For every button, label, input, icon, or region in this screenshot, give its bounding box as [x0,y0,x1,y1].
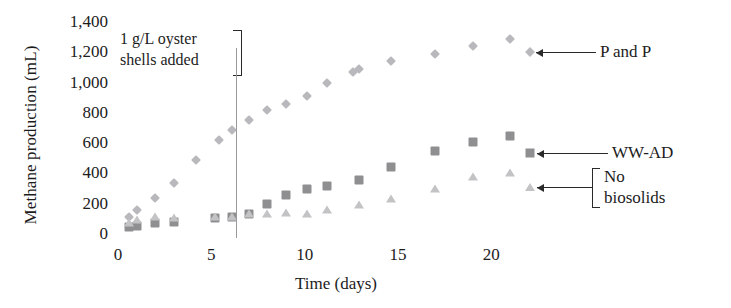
data-point [214,135,224,145]
legend-label-no-biosolids-line1: No [604,166,625,187]
callout-line-ww-ad [537,153,608,154]
x-axis-title: Time (days) [236,274,436,294]
data-point [323,182,332,191]
y-tick-label: 0 [36,225,108,242]
x-tick-label: 15 [368,246,428,263]
oyster-shell-divider-line [236,48,237,238]
data-point [281,99,291,109]
y-tick-label: 800 [36,104,108,121]
y-tick-label: 1,000 [36,74,108,91]
data-point [322,78,332,88]
data-point [322,205,332,213]
data-point [262,210,272,218]
data-point [281,208,291,216]
annotation-line-2: shells added [120,49,199,70]
data-point [169,178,179,188]
data-point [468,138,477,147]
y-tick-label: 1,400 [36,13,108,30]
y-tick-label: 200 [36,195,108,212]
callout-line-p-and-p [536,52,596,53]
data-point [505,34,515,44]
data-point [263,200,272,209]
oyster-shell-annotation: 1 g/L oyster shells added [120,28,199,70]
callout-arrowhead-icon [537,150,544,158]
data-point [150,213,160,221]
data-point [430,184,440,192]
data-point [169,214,179,222]
data-point [505,168,515,176]
data-point [244,210,254,218]
annotation-bracket [233,30,242,76]
legend-label-no-biosolids-line2: biosolids [604,187,665,208]
x-tick-label: 10 [275,246,335,263]
legend-label-p-and-p: P and P [600,41,651,62]
data-point [431,147,440,156]
x-tick-label: 20 [461,246,521,263]
y-tick-label: 600 [36,134,108,151]
data-point [302,209,312,217]
data-point [354,176,363,185]
callout-line-no-biosolids [537,187,592,188]
data-point [430,49,440,59]
annotation-line-1: 1 g/L oyster [120,28,199,49]
data-point [386,195,396,203]
data-point [210,213,220,221]
x-tick-label: 5 [181,246,241,263]
data-point [354,201,364,209]
data-point [191,155,201,165]
data-point [262,105,272,115]
data-point [468,41,478,51]
data-point [282,191,291,200]
data-point [244,115,254,125]
data-point [386,162,395,171]
y-tick-label: 400 [36,164,108,181]
y-tick-label: 1,200 [36,43,108,60]
data-point [506,131,515,140]
callout-arrowhead-icon [537,184,544,192]
data-point [132,205,142,215]
legend-bracket-no-biosolids [592,168,600,208]
methane-production-chart: Methane production (mL) 02004006008001,0… [0,0,731,308]
data-point [468,173,478,181]
legend-marker-ww-ad [526,149,535,158]
legend-marker-no-biosolids [525,183,535,191]
data-point [302,91,312,101]
x-tick-label: 0 [88,246,148,263]
data-point [150,193,160,203]
data-point [302,185,311,194]
legend-label-ww-ad: WW-AD [612,142,673,163]
data-point [386,56,396,66]
callout-arrowhead-icon [536,49,543,57]
data-point [132,215,142,223]
